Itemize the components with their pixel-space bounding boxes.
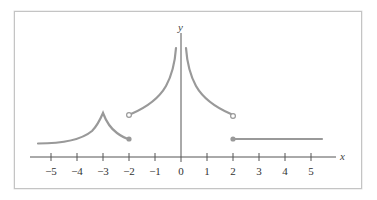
graph-canvas: −5 −4 −3 −2 −1 0 1 2 3 4 5 x y bbox=[0, 0, 377, 200]
curve-piece-1 bbox=[38, 113, 129, 144]
tick-label: 5 bbox=[308, 165, 314, 177]
curve-piece-2 bbox=[131, 48, 176, 114]
tick-label: 4 bbox=[282, 165, 288, 177]
tick-label: −2 bbox=[123, 165, 135, 177]
open-point-marker bbox=[127, 113, 132, 118]
tick-label: 0 bbox=[178, 165, 184, 177]
x-tick-labels: −5 −4 −3 −2 −1 0 1 2 3 4 5 bbox=[45, 165, 314, 177]
y-axis-label: y bbox=[177, 21, 183, 33]
tick-label: 1 bbox=[204, 165, 210, 177]
x-axis-label: x bbox=[339, 150, 345, 162]
closed-point-marker bbox=[126, 136, 131, 141]
tick-label: 3 bbox=[256, 165, 262, 177]
tick-label: −5 bbox=[45, 165, 57, 177]
tick-label: −1 bbox=[149, 165, 161, 177]
open-point-marker bbox=[231, 114, 236, 119]
curve-piece-3 bbox=[186, 48, 231, 114]
tick-label: −3 bbox=[97, 165, 109, 177]
tick-label: −4 bbox=[71, 165, 83, 177]
closed-point-marker bbox=[230, 136, 235, 141]
tick-label: 2 bbox=[230, 165, 236, 177]
